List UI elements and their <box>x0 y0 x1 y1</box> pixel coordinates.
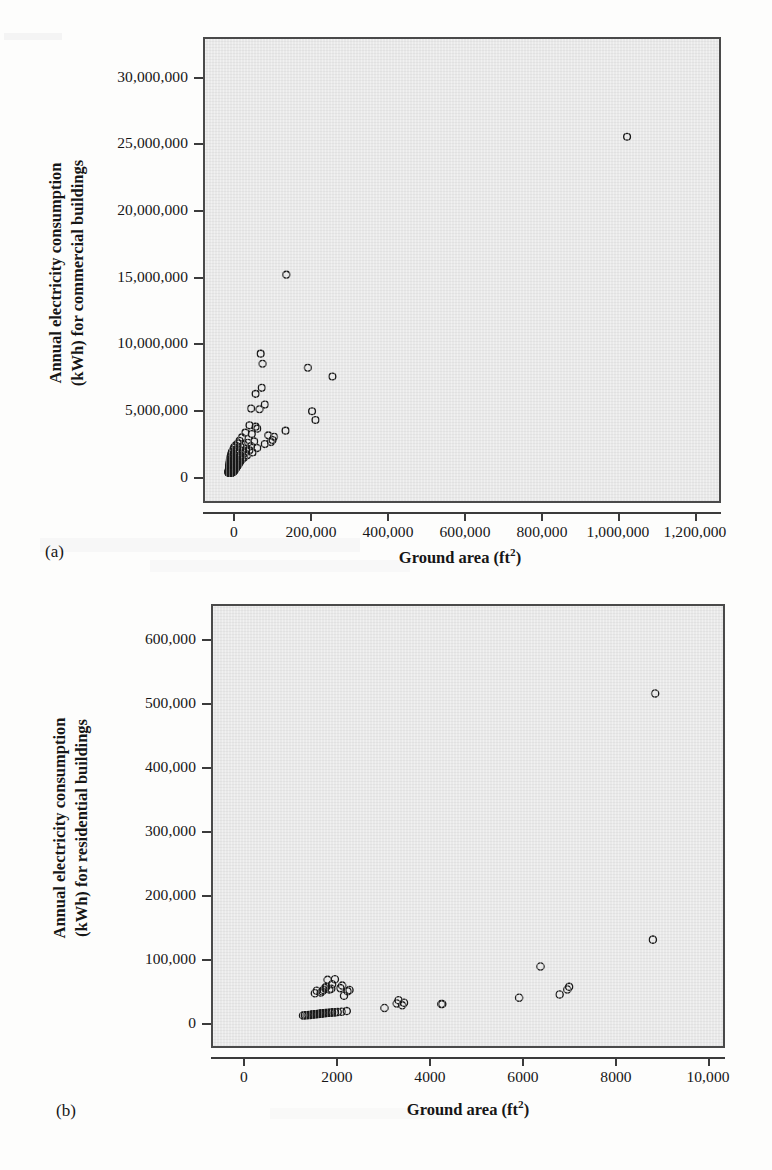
x-tick-label-b-4: 8000 <box>566 1068 666 1086</box>
data-point <box>252 390 259 397</box>
x-tick-label-b-3: 6000 <box>473 1068 573 1086</box>
y-tick-a-2 <box>194 343 203 345</box>
x-tick-a-6 <box>695 512 697 521</box>
scatter-points-a <box>205 39 723 505</box>
y-tick-a-6 <box>194 77 203 79</box>
data-point <box>649 936 656 943</box>
x-tick-b-5 <box>708 1057 710 1066</box>
y-tick-a-5 <box>194 143 203 145</box>
x-axis-line-a <box>203 512 721 514</box>
x-tick-label-b-5: 10,000 <box>658 1068 758 1086</box>
data-point <box>309 408 316 415</box>
x-tick-b-4 <box>615 1057 617 1066</box>
data-point <box>556 991 563 998</box>
subfigure-label-a: (a) <box>45 542 64 562</box>
figure-page: 0 5,000,000 10,000,000 15,000,000 20,000… <box>0 0 772 1170</box>
x-axis-title-b-tail: ) <box>524 1100 530 1119</box>
scatter-points-b <box>213 606 727 1050</box>
panel-a: 0 5,000,000 10,000,000 15,000,000 20,000… <box>0 0 772 585</box>
data-point <box>381 1004 388 1011</box>
data-point <box>257 350 264 357</box>
y-tick-b-4 <box>202 767 211 769</box>
x-axis-line-b <box>211 1057 725 1059</box>
x-tick-a-3 <box>464 512 466 521</box>
x-axis-title-b-text: Ground area (ft <box>407 1100 518 1119</box>
panel-b: 0 100,000 200,000 300,000 400,000 500,00… <box>0 585 772 1170</box>
y-axis-title-b-line2: (kWh) for residential buildings <box>71 628 93 1028</box>
y-axis-title-a-line1: Annual electricity consumption <box>45 73 67 473</box>
data-point <box>329 373 336 380</box>
plot-area-a <box>203 37 721 503</box>
data-point <box>537 963 544 970</box>
data-point <box>248 405 255 412</box>
x-tick-label-b-0: 0 <box>194 1068 294 1086</box>
x-tick-a-0 <box>233 512 235 521</box>
x-tick-a-4 <box>541 512 543 521</box>
y-tick-a-4 <box>194 210 203 212</box>
data-point <box>261 441 268 448</box>
y-tick-a-1 <box>194 410 203 412</box>
data-point <box>624 133 631 140</box>
data-point <box>516 994 523 1001</box>
data-point <box>324 976 331 983</box>
y-tick-b-0 <box>202 1023 211 1025</box>
y-axis-title-b: Annual electricity consumption (kWh) for… <box>49 628 91 1028</box>
plot-area-b <box>211 604 725 1048</box>
y-tick-b-5 <box>202 703 211 705</box>
data-point <box>258 384 265 391</box>
x-tick-label-a-6: 1,200,000 <box>644 523 746 541</box>
subfigure-label-b: (b) <box>56 1101 76 1121</box>
data-point <box>652 690 659 697</box>
y-tick-a-3 <box>194 277 203 279</box>
y-tick-b-2 <box>202 895 211 897</box>
x-tick-a-1 <box>310 512 312 521</box>
x-tick-a-5 <box>618 512 620 521</box>
y-axis-title-b-line1: Annual electricity consumption <box>49 628 71 1028</box>
data-point <box>312 417 319 424</box>
data-point <box>254 425 261 432</box>
data-point <box>283 271 290 278</box>
data-point <box>256 406 263 413</box>
data-point <box>304 364 311 371</box>
y-tick-a-0 <box>194 477 203 479</box>
x-tick-label-b-2: 4000 <box>380 1068 480 1086</box>
x-axis-title-a-tail: ) <box>516 548 522 567</box>
y-axis-title-a: Annual electricity consumption (kWh) for… <box>45 73 87 473</box>
y-tick-b-3 <box>202 831 211 833</box>
x-tick-b-2 <box>429 1057 431 1066</box>
x-axis-title-a: Ground area (ft2) <box>340 546 580 568</box>
data-point <box>248 431 255 438</box>
x-tick-a-2 <box>387 512 389 521</box>
x-tick-b-0 <box>243 1057 245 1066</box>
y-axis-title-a-line2: (kWh) for commercial buildings <box>67 73 89 473</box>
x-axis-title-b: Ground area (ft2) <box>348 1098 588 1120</box>
data-point <box>282 427 289 434</box>
data-point <box>242 429 249 436</box>
x-axis-title-a-text: Ground area (ft <box>399 548 510 567</box>
y-tick-b-1 <box>202 959 211 961</box>
data-point <box>259 360 266 367</box>
x-tick-b-3 <box>522 1057 524 1066</box>
x-tick-b-1 <box>336 1057 338 1066</box>
y-tick-b-6 <box>202 639 211 641</box>
x-tick-label-b-1: 2000 <box>287 1068 387 1086</box>
